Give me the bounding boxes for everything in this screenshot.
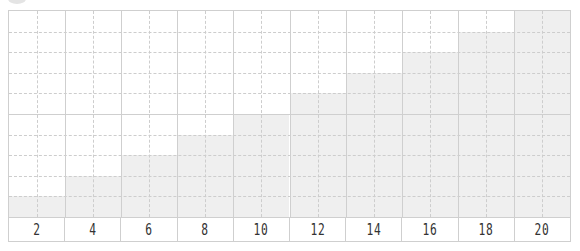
grid-line-vertical bbox=[458, 11, 459, 217]
x-tick-label-text: 4 bbox=[89, 221, 97, 239]
x-tick-label-text: 6 bbox=[145, 221, 153, 239]
x-tick-label: 10 bbox=[233, 218, 289, 241]
x-tick-label: 2 bbox=[9, 218, 64, 241]
corner-knob-icon bbox=[8, 0, 26, 4]
x-tick-label-text: 20 bbox=[535, 221, 550, 239]
grid-line-vertical-minor bbox=[318, 11, 319, 217]
chart-plot-area bbox=[8, 10, 571, 218]
grid-line-vertical bbox=[402, 11, 403, 217]
grid-line-vertical-minor bbox=[261, 11, 262, 217]
grid-line-vertical bbox=[121, 11, 122, 217]
x-tick-label: 4 bbox=[64, 218, 120, 241]
x-tick-label: 16 bbox=[401, 218, 457, 241]
grid-line-vertical-minor bbox=[93, 11, 94, 217]
x-tick-label-text: 16 bbox=[422, 221, 437, 239]
x-tick-label: 6 bbox=[120, 218, 176, 241]
x-tick-label-text: 2 bbox=[33, 221, 41, 239]
grid-line-vertical-minor bbox=[37, 11, 38, 217]
grid-line-vertical bbox=[514, 11, 515, 217]
x-tick-label-text: 12 bbox=[310, 221, 325, 239]
grid-line-vertical-minor bbox=[205, 11, 206, 217]
x-tick-label-text: 10 bbox=[254, 221, 269, 239]
x-tick-label-text: 18 bbox=[479, 221, 494, 239]
grid-line-vertical bbox=[65, 11, 66, 217]
grid-line-vertical-minor bbox=[542, 11, 543, 217]
grid-line-vertical bbox=[290, 11, 291, 217]
grid-line-vertical bbox=[233, 11, 234, 217]
grid-line-vertical bbox=[177, 11, 178, 217]
x-tick-label: 20 bbox=[514, 218, 570, 241]
grid-line-vertical-minor bbox=[430, 11, 431, 217]
x-tick-label: 14 bbox=[345, 218, 401, 241]
x-tick-label: 18 bbox=[458, 218, 514, 241]
x-axis-labels: 2468101214161820 bbox=[8, 217, 571, 242]
grid-line-vertical-minor bbox=[149, 11, 150, 217]
x-tick-label: 8 bbox=[177, 218, 233, 241]
grid-line-vertical-minor bbox=[486, 11, 487, 217]
x-tick-label: 12 bbox=[289, 218, 345, 241]
grid-line-vertical bbox=[346, 11, 347, 217]
x-tick-label-text: 8 bbox=[201, 221, 209, 239]
grid-line-vertical-minor bbox=[374, 11, 375, 217]
x-tick-label-text: 14 bbox=[366, 221, 381, 239]
